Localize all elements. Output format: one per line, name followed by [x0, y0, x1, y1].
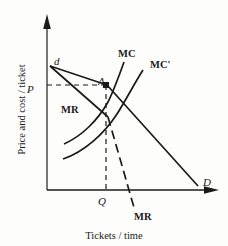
marginal-cost-prime-label: MC' — [150, 60, 170, 71]
x-axis-label: Tickets / time — [0, 230, 228, 241]
marginal-revenue-extension — [108, 117, 135, 211]
price-label: P — [27, 84, 34, 95]
economics-diagram: Price and cost / ticket Tickets / time d… — [0, 0, 228, 246]
y-axis — [43, 14, 51, 190]
quantity-label: Q — [98, 196, 106, 207]
point-A-label: A — [98, 76, 105, 87]
plot-area — [0, 0, 228, 246]
demand-curve-label: D — [203, 177, 211, 188]
demand-curve — [50, 66, 198, 186]
marginal-revenue-label-inner: MR — [61, 105, 79, 116]
demand-origin-label: d — [54, 56, 60, 67]
marginal-revenue-label-outer: MR — [134, 212, 152, 223]
y-axis-label: Price and cost / ticket — [16, 45, 27, 175]
x-axis — [47, 186, 219, 194]
marginal-revenue-curve — [50, 66, 108, 117]
marginal-cost-label: MC — [118, 49, 136, 60]
